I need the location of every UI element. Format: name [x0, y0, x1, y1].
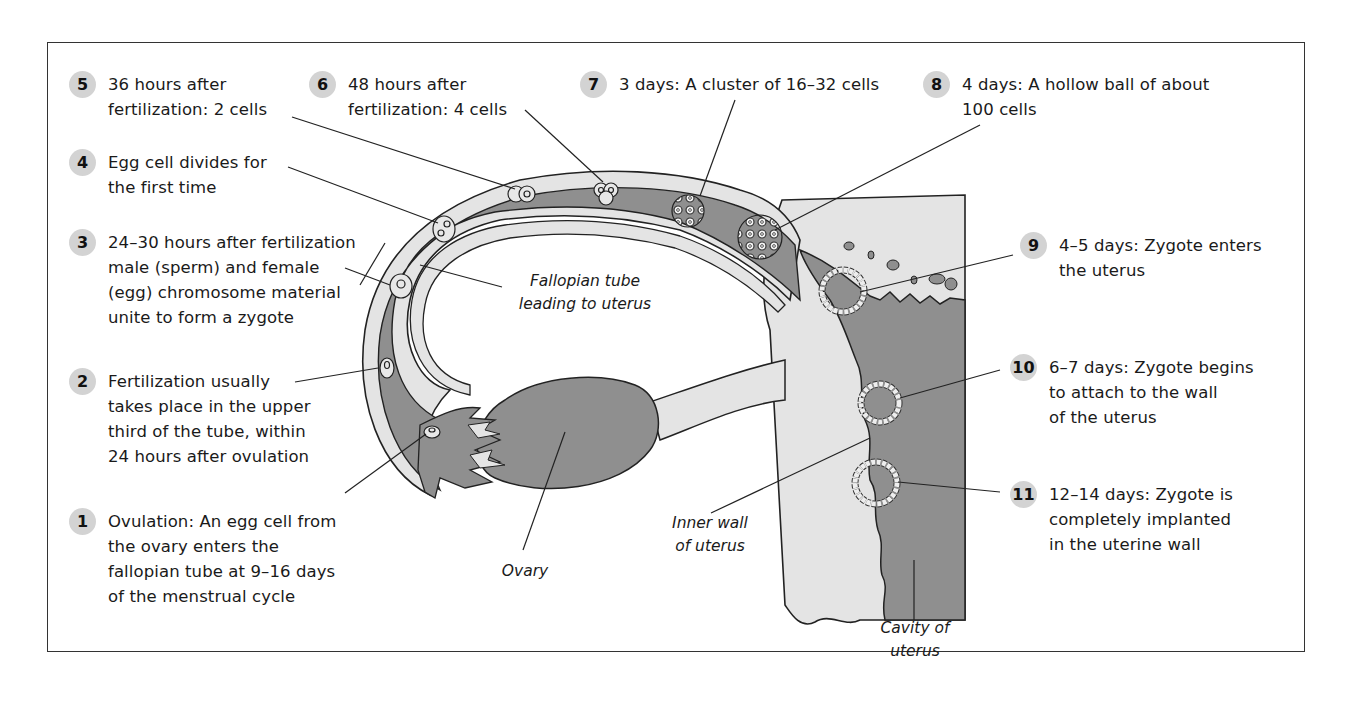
step-6: 6 48 hours after fertilization: 4 cells: [309, 72, 507, 122]
step-number-badge: 2: [69, 368, 96, 395]
step-description: Ovulation: An egg cell from the ovary en…: [108, 509, 336, 609]
step-number-badge: 8: [923, 71, 950, 98]
step-10: 10 6–7 days: Zygote begins to attach to …: [1010, 355, 1254, 430]
step-description: Fertilization usually takes place in the…: [108, 369, 311, 469]
step-description: 6–7 days: Zygote begins to attach to the…: [1049, 355, 1254, 430]
step-number-badge: 10: [1010, 354, 1037, 381]
step-description: 12–14 days: Zygote is completely implant…: [1049, 482, 1233, 557]
blastocyst: [738, 215, 782, 259]
label-inner-wall-of-uterus: Inner wall of uterus: [655, 512, 765, 558]
step-8: 8 4 days: A hollow ball of about 100 cel…: [923, 72, 1209, 122]
step-number-badge: 9: [1020, 232, 1047, 259]
step-description: 4 days: A hollow ball of about 100 cells: [962, 72, 1209, 122]
step-description: Egg cell divides for the first time: [108, 150, 267, 200]
ovary: [477, 377, 658, 488]
step-5: 5 36 hours after fertilization: 2 cells: [69, 72, 267, 122]
step-number-badge: 7: [580, 71, 607, 98]
label-cavity-of-uterus: Cavity of uterus: [865, 617, 965, 663]
step-3: 3 24–30 hours after fertilization male (…: [69, 230, 356, 330]
ovarian-ligament: [650, 360, 785, 440]
step-number-badge: 4: [69, 149, 96, 176]
label-fallopian-tube: Fallopian tube leading to uterus: [505, 270, 665, 316]
step-number-badge: 1: [69, 508, 96, 535]
step-number-badge: 3: [69, 229, 96, 256]
step-description: 4–5 days: Zygote enters the uterus: [1059, 233, 1262, 283]
step-7: 7 3 days: A cluster of 16–32 cells: [580, 72, 879, 98]
step-number-badge: 6: [309, 71, 336, 98]
step-2: 2 Fertilization usually takes place in t…: [69, 369, 311, 469]
step-description: 36 hours after fertilization: 2 cells: [108, 72, 267, 122]
step-number-badge: 11: [1010, 481, 1037, 508]
step-1: 1 Ovulation: An egg cell from the ovary …: [69, 509, 336, 609]
step-4: 4 Egg cell divides for the first time: [69, 150, 267, 200]
step-11: 11 12–14 days: Zygote is completely impl…: [1010, 482, 1233, 557]
step-number-badge: 5: [69, 71, 96, 98]
step-description: 3 days: A cluster of 16–32 cells: [619, 72, 879, 97]
label-ovary: Ovary: [485, 560, 565, 583]
step-9: 9 4–5 days: Zygote enters the uterus: [1020, 233, 1262, 283]
step-description: 24–30 hours after fertilization male (sp…: [108, 230, 356, 330]
morula-cell-cluster: [672, 195, 704, 227]
step-description: 48 hours after fertilization: 4 cells: [348, 72, 507, 122]
